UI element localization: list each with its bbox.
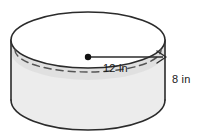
cylinder-figure: 12 in 8 in bbox=[0, 0, 200, 139]
cylinder-drawing bbox=[0, 0, 200, 139]
radius-label: 12 in bbox=[103, 63, 128, 74]
height-label: 8 in bbox=[172, 74, 191, 85]
center-point-dot bbox=[85, 54, 91, 60]
